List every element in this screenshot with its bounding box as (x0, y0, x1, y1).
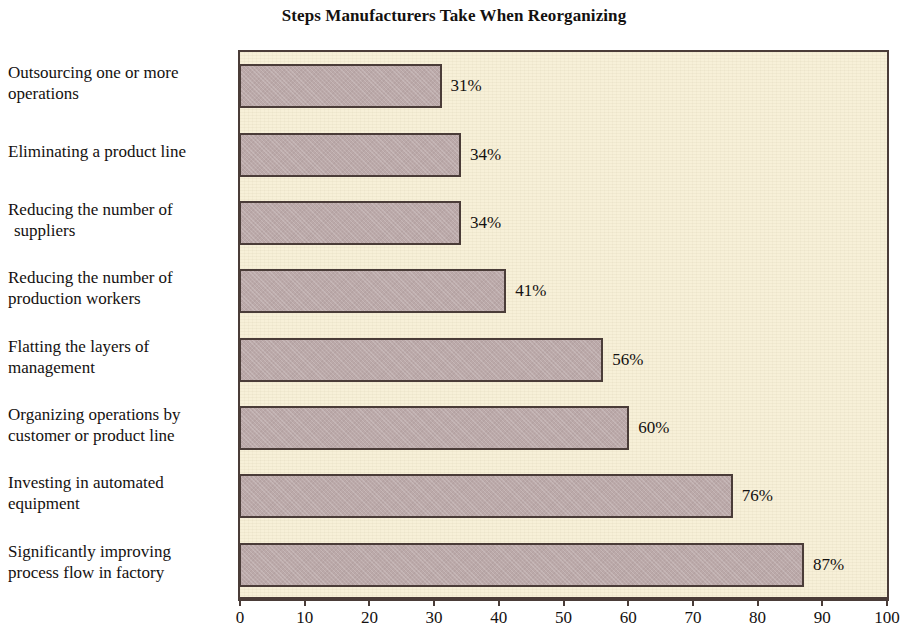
bar-value-label: 34% (470, 145, 501, 165)
x-axis-tick (886, 597, 888, 606)
x-axis-tick (627, 597, 629, 606)
bar[interactable] (239, 201, 461, 245)
category-label-line: Reducing the number of (8, 267, 232, 288)
x-axis-tick-label: 80 (749, 608, 766, 628)
bar-band: 34% (240, 201, 887, 245)
bar[interactable] (239, 474, 733, 518)
x-axis-tick (368, 597, 370, 606)
bar[interactable] (239, 338, 603, 382)
category-label: Investing in automatedequipment (8, 472, 232, 514)
bar[interactable] (239, 133, 461, 177)
x-axis-tick-label: 20 (361, 608, 378, 628)
category-label-line: Significantly improving (8, 541, 232, 562)
bar-band: 56% (240, 338, 887, 382)
category-label-line: production workers (8, 288, 232, 309)
bar[interactable] (239, 64, 442, 108)
category-label-line: Reducing the number of (8, 199, 232, 220)
x-axis-tick (692, 597, 694, 606)
x-axis-tick-label: 60 (620, 608, 637, 628)
bar[interactable] (239, 269, 506, 313)
category-label-line: management (8, 357, 232, 378)
category-label: Significantly improvingprocess flow in f… (8, 541, 232, 583)
category-label-line: Eliminating a product line (8, 141, 232, 162)
bar[interactable] (239, 406, 629, 450)
x-axis-tick-label: 40 (490, 608, 507, 628)
x-axis-tick-label: 70 (684, 608, 701, 628)
x-axis-tick-label: 100 (874, 608, 900, 628)
x-axis-tick-label: 10 (296, 608, 313, 628)
plot-area: 31%34%34%41%56%60%76%87% (238, 50, 889, 601)
bar-value-label: 41% (515, 281, 546, 301)
bar-value-label: 31% (451, 76, 482, 96)
category-label: Reducing the number ofsuppliers (8, 199, 232, 241)
category-label-line: suppliers (8, 220, 232, 241)
category-label-line: Investing in automated (8, 472, 232, 493)
category-label-line: equipment (8, 493, 232, 514)
bar-value-label: 76% (742, 486, 773, 506)
bar-band: 41% (240, 269, 887, 313)
category-label: Reducing the number ofproduction workers (8, 267, 232, 309)
bar-value-label: 34% (470, 213, 501, 233)
category-label-line: operations (8, 83, 232, 104)
x-axis: 0102030405060708090100 (238, 597, 889, 634)
x-axis-tick (239, 597, 241, 606)
bar-band: 87% (240, 543, 887, 587)
category-label: Organizing operations bycustomer or prod… (8, 404, 232, 446)
x-axis-tick-label: 90 (814, 608, 831, 628)
bar[interactable] (239, 543, 804, 587)
category-label-line: Organizing operations by (8, 404, 232, 425)
category-label: Eliminating a product line (8, 141, 232, 162)
category-label-line: Outsourcing one or more (8, 62, 232, 83)
x-axis-tick (757, 597, 759, 606)
x-axis-tick-label: 0 (236, 608, 245, 628)
x-axis-tick (498, 597, 500, 606)
x-axis-tick (433, 597, 435, 606)
category-label-line: Flatting the layers of (8, 336, 232, 357)
x-axis-tick (563, 597, 565, 606)
bar-value-label: 60% (638, 418, 669, 438)
bar-band: 34% (240, 133, 887, 177)
x-axis-tick (821, 597, 823, 606)
bar-band: 76% (240, 474, 887, 518)
x-axis-tick-label: 50 (555, 608, 572, 628)
category-label-line: process flow in factory (8, 562, 232, 583)
category-label: Flatting the layers ofmanagement (8, 336, 232, 378)
category-label-line: customer or product line (8, 425, 232, 446)
chart-title: Steps Manufacturers Take When Reorganizi… (0, 6, 908, 26)
bar-band: 31% (240, 64, 887, 108)
x-axis-tick (304, 597, 306, 606)
bar-value-label: 56% (612, 350, 643, 370)
x-axis-tick-label: 30 (426, 608, 443, 628)
bar-value-label: 87% (813, 555, 844, 575)
category-label: Outsourcing one or moreoperations (8, 62, 232, 104)
bar-band: 60% (240, 406, 887, 450)
